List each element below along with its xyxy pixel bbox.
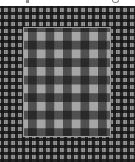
- fabric-image: [0, 0, 135, 162]
- cropped-text-fragment: [26, 0, 29, 3]
- cropped-text-fragment: [112, 0, 119, 3]
- large-gingham-inset: [24, 28, 110, 136]
